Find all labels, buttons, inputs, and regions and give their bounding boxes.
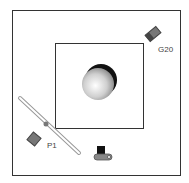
subject-sphere xyxy=(82,64,117,100)
p1-light-icon xyxy=(27,132,41,146)
g20-label: G20 xyxy=(158,45,174,54)
g20-light-icon xyxy=(145,26,161,41)
camera-icon xyxy=(94,146,112,160)
lighting-diagram: G20 P1 xyxy=(0,0,189,183)
p1-label: P1 xyxy=(47,141,57,150)
